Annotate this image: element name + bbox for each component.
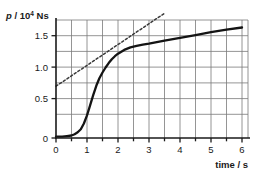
y-tick-label-0.5: 0.5	[35, 93, 48, 104]
svg-text:p / 104 Ns: p / 104 Ns	[5, 10, 49, 22]
x-tick-label-1: 1	[84, 144, 89, 155]
x-axis-title: time / s	[215, 159, 248, 170]
x-tick-label-3: 3	[146, 144, 151, 155]
y-tick-label-0: 0	[43, 133, 48, 144]
chart-background	[0, 0, 268, 171]
x-tick-label-4: 4	[177, 144, 182, 155]
y-tick-label-1.0: 1.0	[35, 62, 48, 73]
chart-svg: 0 1 2 3 4 5 6 0 0.5 1.0 1.5 p / 104 Ns t…	[0, 0, 268, 171]
x-tick-label-0: 0	[53, 144, 58, 155]
x-tick-label-6: 6	[239, 144, 244, 155]
x-axis-title-text: time / s	[215, 159, 248, 170]
chart-figure: 0 1 2 3 4 5 6 0 0.5 1.0 1.5 p / 104 Ns t…	[0, 0, 268, 171]
y-axis-title: p / 104 Ns	[5, 10, 49, 22]
y-axis-title-unit: Ns	[34, 10, 49, 21]
x-tick-label-5: 5	[208, 144, 213, 155]
x-tick-label-2: 2	[115, 144, 120, 155]
y-tick-label-1.5: 1.5	[35, 30, 48, 41]
y-axis-title-rest: / 10	[12, 10, 31, 21]
